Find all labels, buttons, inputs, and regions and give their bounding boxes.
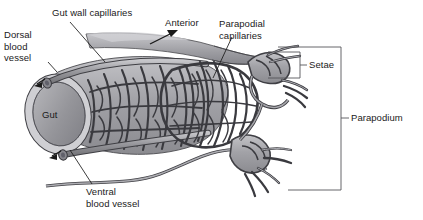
figure-canvas: Gut wall capillaries Dorsal blood vessel…	[0, 0, 423, 220]
label-setae: Setae	[309, 59, 334, 71]
label-gut-wall-capillaries: Gut wall capillaries	[52, 7, 132, 19]
anatomy-illustration	[0, 0, 423, 220]
label-dorsal-blood-vessel: Dorsal blood vessel	[4, 29, 32, 64]
label-ventral-blood-vessel: Ventral blood vessel	[86, 186, 139, 209]
ventral-blood-vessel-leader	[70, 150, 92, 184]
label-parapodial-capillaries: Parapodial capillaries	[219, 18, 265, 41]
label-anterior: Anterior	[165, 17, 199, 29]
label-parapodium: Parapodium	[351, 112, 403, 124]
label-gut: Gut	[42, 109, 57, 121]
dorsal-blood-vessel-leader	[48, 62, 57, 72]
